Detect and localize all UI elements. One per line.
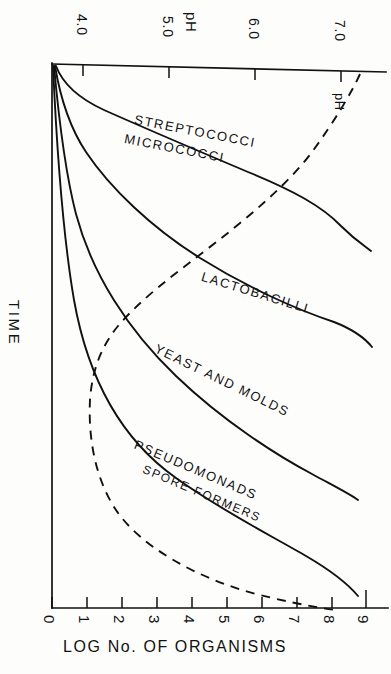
ph-axis-line	[52, 64, 386, 72]
x-tick-label-5: 5	[216, 615, 233, 624]
ph-tick-label-4: 4.0	[74, 14, 90, 36]
log-count-axis-title: LOG No. OF ORGANISMS	[63, 638, 287, 656]
ph-curve-label: pH	[332, 93, 347, 110]
ph-tick-label-5: 5.0	[160, 16, 176, 38]
x-tick-label-0: 0	[41, 615, 58, 624]
x-tick-label-2: 2	[111, 615, 128, 624]
chart-figure: pH 4.0 5.0 6.0 7.0 pH TIME 0 1 2 3 4 5 6…	[0, 0, 391, 674]
x-tick-label-3: 3	[146, 615, 163, 624]
x-tick-label-7: 7	[286, 615, 303, 624]
x-tick-label-4: 4	[181, 615, 198, 624]
ph-tick-label-6: 6.0	[246, 18, 262, 40]
x-tick-label-1: 1	[76, 615, 93, 624]
curve-lactobacilli	[55, 66, 372, 347]
time-axis-title: TIME	[6, 300, 23, 346]
x-tick-label-8: 8	[321, 615, 338, 624]
x-tick-label-9: 9	[355, 615, 372, 624]
ph-axis-title: pH	[183, 12, 200, 32]
ph-tick-label-7: 7.0	[332, 20, 348, 42]
log-count-axis-ticks	[52, 590, 366, 608]
x-tick-label-6: 6	[251, 615, 268, 624]
